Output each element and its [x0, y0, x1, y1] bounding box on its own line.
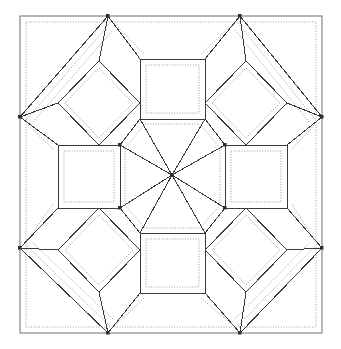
- edge-square-east: [225, 145, 287, 208]
- edge-square-south-dotted: [146, 239, 199, 287]
- edge-square-north: [140, 59, 205, 119]
- spoke-s-left: [140, 175, 172, 233]
- corner-diamond-top-right: [205, 61, 287, 145]
- corner-triangle-top-right: [240, 16, 322, 117]
- vertex-top-left-edge: [106, 14, 110, 18]
- seam-br-to-diamond-b: [287, 248, 322, 250]
- vertex-right-bot-edge: [320, 246, 324, 250]
- corner-diamond-bottom-left-dotted: [65, 215, 133, 285]
- spoke-e-bot: [172, 175, 225, 208]
- edge-square-east-dotted: [231, 151, 281, 202]
- spoke-e-top: [172, 145, 225, 175]
- edge-square-east-quilt-tr: [292, 124, 315, 149]
- spoke-w-bot: [120, 175, 172, 208]
- spoke-n-left: [140, 119, 172, 175]
- quilt-block-diagram: Geometric quilt block pattern Eight-poin…: [0, 0, 341, 349]
- corner-triangle-bottom-left-dotted-2: [33, 243, 113, 319]
- edge-square-east-quilt-br: [292, 204, 315, 241]
- corner-triangle-top-left-dotted: [27, 23, 110, 119]
- edge-square-south: [140, 233, 205, 293]
- vertex-octagon-nw: [118, 143, 122, 147]
- vertex-right-top-edge: [320, 115, 324, 119]
- edge-square-north-seam-tr: [205, 16, 240, 59]
- corner-triangle-bottom-left: [20, 248, 108, 333]
- spoke-n-right: [172, 119, 205, 175]
- corner-diamond-top-left: [58, 61, 140, 145]
- edge-square-west-seam-bl: [20, 208, 58, 248]
- edge-square-south-seam-br: [205, 293, 240, 333]
- edge-square-south-quilt-br: [201, 298, 234, 326]
- corner-triangle-bottom-right-dotted-2: [235, 243, 309, 319]
- spoke-w-top: [120, 145, 172, 175]
- edge-square-east-seam-br: [287, 208, 322, 248]
- radiating-spokes-group: [120, 119, 225, 233]
- edge-square-west-quilt-bl: [27, 204, 53, 241]
- edge-square-south-quilt-bl: [114, 298, 144, 326]
- corner-triangle-bottom-right: [240, 248, 322, 333]
- corner-triangle-bottom-right-dotted: [238, 246, 315, 326]
- corner-diamond-bottom-left: [58, 208, 140, 292]
- center-vertex-dot: [170, 173, 174, 177]
- corner-diamond-bottom-right-dotted: [212, 215, 280, 285]
- seam-tl-to-diamond-a: [99, 16, 108, 61]
- corner-diamond-bottom-right: [205, 208, 287, 292]
- seam-bl-to-diamond-a: [99, 292, 108, 333]
- corner-triangle-top-right-dotted-2: [235, 30, 309, 122]
- edge-square-west: [58, 145, 120, 208]
- edge-square-north-quilt-tl: [114, 23, 144, 54]
- edge-square-west-quilt-tl: [27, 124, 53, 149]
- corner-triangle-bottom-left-dotted: [27, 246, 110, 326]
- corner-triangle-top-left: [20, 16, 108, 117]
- vertex-octagon-ne: [223, 143, 227, 147]
- vertex-left-bot-edge: [18, 246, 22, 250]
- edge-square-west-dotted: [64, 151, 114, 202]
- vertex-octagon-sw: [118, 206, 122, 210]
- edge-square-east-seam-tr: [287, 117, 322, 145]
- corner-diamond-top-right-dotted: [212, 68, 280, 138]
- corner-triangle-top-right-dotted: [238, 23, 315, 119]
- corner-diamond-top-left-dotted: [65, 68, 133, 138]
- vertex-top-right-edge: [238, 14, 242, 18]
- edge-square-north-dotted: [146, 65, 199, 113]
- vertex-left-top-edge: [18, 115, 22, 119]
- edge-square-north-quilt-tr: [201, 23, 234, 54]
- edge-square-north-seam-tl: [108, 16, 140, 59]
- vertex-bot-left-edge: [106, 331, 110, 335]
- vertex-bot-right-edge: [238, 331, 242, 335]
- vertex-octagon-se: [223, 206, 227, 210]
- spoke-s-right: [172, 175, 205, 233]
